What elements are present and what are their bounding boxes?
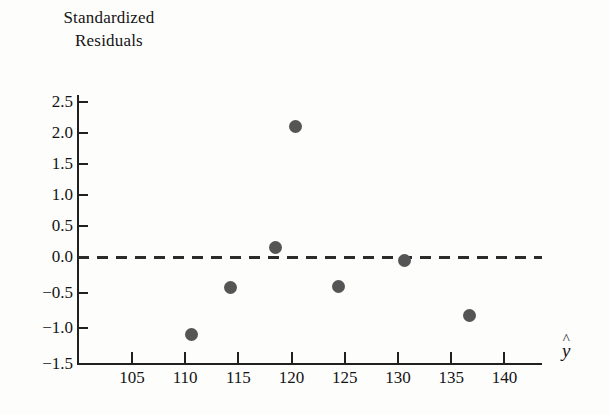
data-point (224, 281, 237, 294)
y-tick-label: −1.0 (13, 319, 73, 336)
data-point (289, 120, 302, 133)
data-point (332, 280, 345, 293)
data-points-layer (77, 95, 532, 364)
x-tick-label: 105 (107, 368, 157, 387)
y-tick-label: 0.0 (13, 248, 73, 265)
x-tick-label: 120 (267, 368, 317, 387)
circumflex-accent-icon: ^ (562, 331, 570, 348)
x-tick-label: 125 (320, 368, 370, 387)
residual-plot-figure: Standardized Residuals 2.52.01.51.00.50.… (0, 0, 610, 415)
x-tick-label: 130 (373, 368, 423, 387)
data-point (398, 254, 411, 267)
data-point (463, 309, 476, 322)
y-axis-title: Standardized Residuals (14, 6, 204, 52)
y-tick-label: −1.5 (13, 355, 73, 372)
x-tick-label: 140 (479, 368, 529, 387)
x-tick-label: 110 (160, 368, 210, 387)
y-tick-label: 2.0 (13, 124, 73, 141)
x-tick-label: 135 (426, 368, 476, 387)
data-point (185, 328, 198, 341)
y-tick-label: 1.5 (13, 155, 73, 172)
y-tick-label: 1.0 (13, 186, 73, 203)
y-tick-label: 2.5 (13, 93, 73, 110)
x-axis-variable-label: ^y (562, 340, 570, 362)
y-tick-label: −0.5 (13, 284, 73, 301)
x-tick-label: 115 (213, 368, 263, 387)
y-tick-label: 0.5 (13, 217, 73, 234)
data-point (269, 241, 282, 254)
